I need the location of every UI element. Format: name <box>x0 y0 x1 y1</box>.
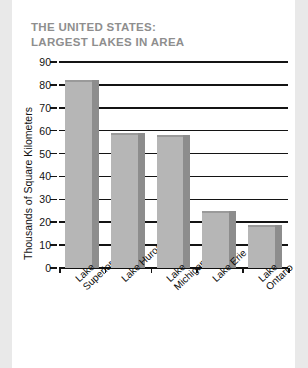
x-axis-tick <box>59 268 61 273</box>
x-axis-tick <box>151 268 153 273</box>
x-axis-tick <box>196 268 198 273</box>
chart-page: THE UNITED STATES: LARGEST LAKES IN AREA… <box>0 0 308 368</box>
gridline <box>59 61 288 63</box>
y-axis-tick <box>50 221 57 223</box>
y-axis-tick <box>50 107 57 109</box>
bar-side-shadow <box>183 135 190 268</box>
page-title: THE UNITED STATES: LARGEST LAKES IN AREA <box>31 20 184 50</box>
x-axis-tick <box>105 268 107 273</box>
y-axis-tick <box>50 84 57 86</box>
y-axis-tick <box>50 153 57 155</box>
bar <box>157 135 191 268</box>
chart-card: THE UNITED STATES: LARGEST LAKES IN AREA… <box>12 0 295 368</box>
y-axis-tick <box>50 176 57 178</box>
y-axis-tick <box>50 61 57 63</box>
bar-side-shadow <box>92 80 99 268</box>
x-axis-tick <box>242 268 244 273</box>
bar <box>111 133 145 268</box>
y-axis-labels: 0102030405060708090 <box>27 62 51 268</box>
y-axis-tick <box>50 199 57 201</box>
y-axis-tick <box>50 244 57 246</box>
bar <box>65 80 99 268</box>
x-axis-tick <box>288 268 290 273</box>
plot-area: Lake SuperiorLake HuronLake MichiganLake… <box>59 62 288 268</box>
bar-side-shadow <box>138 133 145 268</box>
y-axis-tick <box>50 267 57 269</box>
y-axis-tick <box>50 130 57 132</box>
